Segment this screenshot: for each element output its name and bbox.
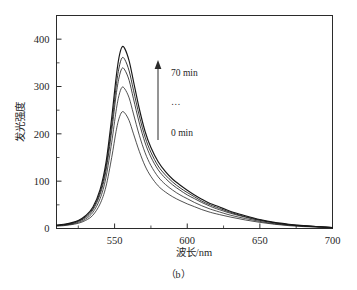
- figure-container: 550600650700 0100200300400 70 min … 0 mi…: [0, 0, 357, 290]
- spectrum-curve: [57, 57, 333, 227]
- x-axis-tick-labels: 550600650700: [107, 235, 341, 246]
- spectrum-curve: [57, 112, 333, 228]
- figure-caption: （b）: [166, 269, 191, 280]
- y-axis-tick-labels: 0100200300400: [34, 34, 50, 234]
- y-axis-title: 发光强度: [14, 101, 26, 142]
- x-axis-title: 波长/nm: [176, 246, 212, 258]
- spectrum-chart: 550600650700 0100200300400 70 min … 0 mi…: [0, 0, 357, 290]
- annotation-top-label: 70 min: [171, 68, 198, 78]
- x-tick-label: 600: [179, 235, 195, 246]
- y-tick-label: 0: [44, 223, 49, 234]
- x-tick-label: 700: [325, 235, 341, 246]
- annotation-middle-label: …: [171, 97, 181, 107]
- y-axis-major-ticks: [57, 39, 62, 228]
- y-tick-label: 200: [34, 129, 50, 140]
- y-tick-label: 400: [34, 34, 50, 45]
- annotation-bottom-label: 0 min: [171, 128, 193, 138]
- y-tick-label: 100: [34, 176, 50, 187]
- y-tick-label: 300: [34, 81, 50, 92]
- upward-trend-arrow: [155, 60, 162, 140]
- x-tick-label: 550: [107, 235, 123, 246]
- x-tick-label: 650: [252, 235, 268, 246]
